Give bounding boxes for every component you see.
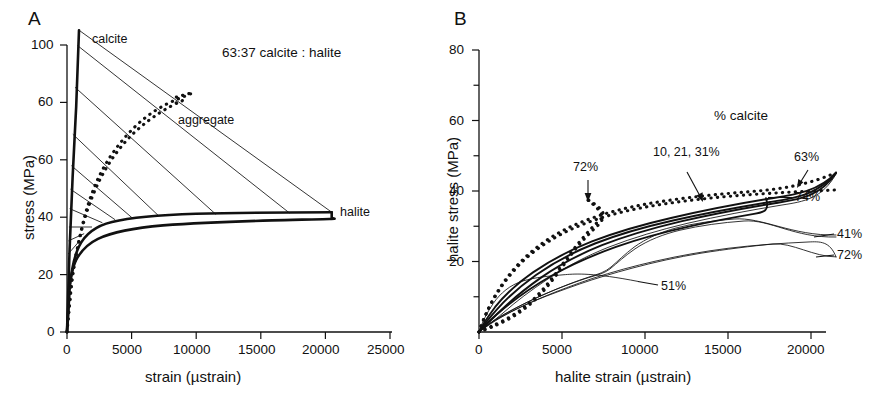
panel-a-ytick-100: 100 bbox=[31, 37, 54, 52]
panel-b-xtick-0: 0 bbox=[475, 342, 483, 357]
panel-b-xtick-20000: 20000 bbox=[787, 342, 825, 357]
panel-a-curve-aggregate-seg1 bbox=[67, 93, 193, 332]
panel-b: B bbox=[442, 0, 884, 405]
panel-a-xtick-20000: 20000 bbox=[302, 342, 340, 357]
panel-b-xtick-5000: 5000 bbox=[542, 342, 572, 357]
panel-b-anno-41: 41% bbox=[837, 227, 862, 241]
panel-b-curve-72-dotted-lower-raw bbox=[479, 198, 603, 332]
panel-a: A bbox=[0, 0, 442, 405]
panel-b-curve-74 bbox=[479, 198, 767, 332]
panel-b-anno-74: 74% bbox=[795, 190, 820, 204]
panel-a-xtick-15000: 15000 bbox=[238, 342, 276, 357]
panel-a-ytick-40: 40 bbox=[38, 209, 53, 224]
panel-a-label-calcite: calcite bbox=[92, 32, 127, 46]
panel-a-curve-halite-main bbox=[67, 212, 332, 332]
panel-a-ytick-20: 20 bbox=[38, 267, 53, 282]
panel-a-label-aggregate: aggregate bbox=[178, 113, 234, 127]
panel-b-xtick-10000: 10000 bbox=[621, 342, 659, 357]
panel-b-xtick-15000: 15000 bbox=[704, 342, 742, 357]
panel-b-curve-41 bbox=[479, 219, 836, 332]
panel-b-curve-72-dotted-lower bbox=[479, 198, 602, 332]
panel-a-ratio-note: 63:37 calcite : halite bbox=[222, 45, 341, 60]
figure-root: A bbox=[0, 0, 884, 405]
panel-b-ylabel: halite stress (MPa) bbox=[444, 137, 461, 262]
panel-b-x-ticks bbox=[479, 332, 811, 339]
panel-a-ytick-60: 60 bbox=[38, 152, 53, 167]
panel-b-ytick-60: 60 bbox=[449, 113, 464, 128]
panel-b-xlabel: halite strain (µstrain) bbox=[555, 368, 691, 385]
panel-a-label-halite: halite bbox=[340, 205, 370, 219]
panel-a-curve-calcite bbox=[67, 30, 79, 332]
panel-a-xtick-5000: 5000 bbox=[112, 342, 142, 357]
panel-a-ytick-80: 60 bbox=[38, 94, 53, 109]
arrowhead-63 bbox=[797, 179, 803, 188]
panel-a-ylabel: stress (MPa) bbox=[20, 155, 37, 240]
panel-b-ytick-80: 80 bbox=[449, 42, 464, 57]
panel-a-xlabel: strain (µstrain) bbox=[145, 368, 241, 385]
panel-b-anno-bundle: 10, 21, 31% bbox=[653, 145, 720, 159]
panel-a-x-ticks bbox=[67, 332, 390, 339]
panel-a-xtick-0: 0 bbox=[63, 342, 71, 357]
panel-b-anno-72-low: 72% bbox=[837, 248, 862, 262]
panel-b-anno-63: 63% bbox=[794, 150, 819, 164]
panel-b-anno-51: 51% bbox=[661, 279, 686, 293]
panel-b-legend-title: % calcite bbox=[714, 108, 768, 123]
panel-a-y-ticks bbox=[60, 45, 67, 332]
panel-b-anno-72-upper: 72% bbox=[573, 160, 598, 174]
panel-b-y-ticks bbox=[472, 50, 479, 297]
panel-a-xtick-25000: 25000 bbox=[367, 342, 405, 357]
panel-a-xtick-10000: 10000 bbox=[173, 342, 211, 357]
panel-a-curve-halite bbox=[67, 212, 335, 332]
panel-b-leaders bbox=[585, 170, 834, 285]
panel-a-ytick-0: 0 bbox=[47, 324, 55, 339]
